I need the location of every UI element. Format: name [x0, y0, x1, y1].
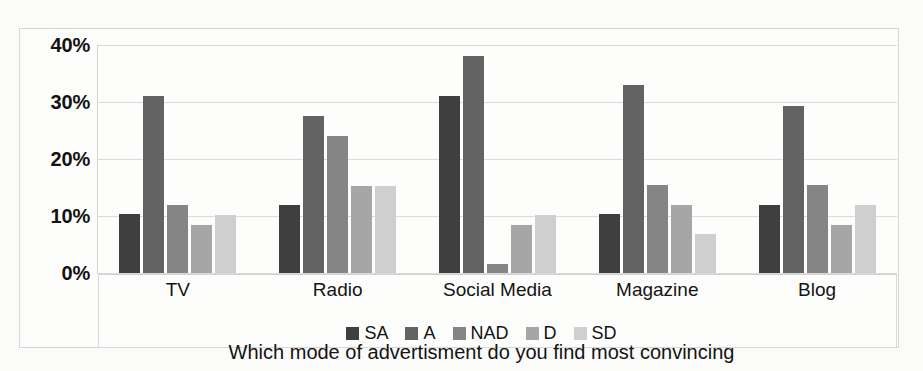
y-axis-tick-label: 10% [28, 205, 90, 228]
bar[interactable] [647, 185, 668, 273]
category-label: Radio [258, 279, 418, 309]
bar[interactable] [535, 215, 556, 273]
bar[interactable] [695, 234, 716, 273]
bar[interactable] [327, 136, 348, 273]
y-axis-tick-label: 0% [28, 262, 90, 285]
legend-item[interactable]: A [405, 323, 435, 344]
legend-item[interactable]: SA [346, 323, 388, 344]
y-axis: 0%10%20%30%40% [20, 45, 90, 273]
legend-label: SA [364, 323, 388, 344]
bar-group-bars [279, 45, 396, 273]
legend-label: NAD [471, 323, 509, 344]
bar[interactable] [439, 96, 460, 273]
bar[interactable] [855, 205, 876, 273]
legend-swatch-icon [346, 327, 359, 340]
y-axis-tick-label: 40% [28, 34, 90, 57]
legend-swatch-icon [574, 327, 587, 340]
x-axis-line [98, 274, 897, 275]
legend-label: SD [592, 323, 617, 344]
legend-item[interactable]: NAD [453, 323, 509, 344]
category-label: Blog [737, 279, 897, 309]
bar-group-bars [599, 45, 716, 273]
legend-swatch-icon [405, 327, 418, 340]
legend-item[interactable]: D [526, 323, 557, 344]
category-label: Social Media [418, 279, 578, 309]
bar-group [98, 45, 258, 273]
bar[interactable] [487, 264, 508, 273]
bar[interactable] [351, 186, 372, 273]
bar[interactable] [759, 205, 780, 273]
chart-legend: SAANADDSD [20, 323, 923, 344]
bar-group-bars [119, 45, 236, 273]
bar-group [258, 45, 418, 273]
bar[interactable] [119, 214, 140, 273]
bar[interactable] [671, 205, 692, 273]
y-axis-tick-label: 30% [28, 91, 90, 114]
bar[interactable] [511, 225, 532, 273]
bar[interactable] [215, 215, 236, 273]
legend-label: A [423, 323, 435, 344]
chart-container: 0%10%20%30%40% TVRadioSocial MediaMagazi… [19, 28, 899, 348]
bar[interactable] [191, 225, 212, 273]
legend-swatch-icon [526, 327, 539, 340]
bar[interactable] [143, 96, 164, 273]
bar[interactable] [375, 186, 396, 273]
bar-group-bars [759, 45, 876, 273]
bar[interactable] [463, 56, 484, 273]
bar[interactable] [783, 106, 804, 273]
y-axis-tick-label: 20% [28, 148, 90, 171]
x-axis-title: Which mode of advertisment do you find m… [20, 341, 923, 364]
bar-group-bars [439, 45, 556, 273]
bar[interactable] [167, 205, 188, 273]
bar-groups [98, 45, 897, 273]
legend-label: D [544, 323, 557, 344]
bar[interactable] [831, 225, 852, 273]
legend-swatch-icon [453, 327, 466, 340]
bar[interactable] [623, 85, 644, 273]
bar-group [737, 45, 897, 273]
bar-group [418, 45, 578, 273]
category-label: Magazine [577, 279, 737, 309]
x-axis-category-labels: TVRadioSocial MediaMagazineBlog [98, 279, 897, 309]
legend-item[interactable]: SD [574, 323, 617, 344]
bar[interactable] [303, 116, 324, 273]
bar-group [577, 45, 737, 273]
bar[interactable] [807, 185, 828, 273]
category-label: TV [98, 279, 258, 309]
bar[interactable] [599, 214, 620, 273]
bar[interactable] [279, 205, 300, 273]
